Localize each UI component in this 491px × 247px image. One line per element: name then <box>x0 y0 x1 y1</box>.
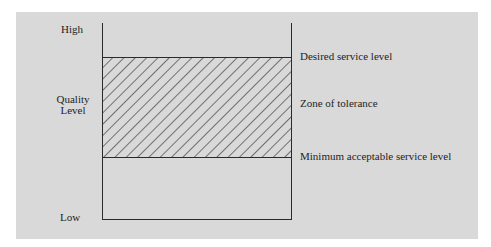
zone-of-tolerance-label: Zone of tolerance <box>300 97 378 110</box>
minimum-acceptable-service-level-label: Minimum acceptable service level <box>300 150 451 163</box>
desired-service-level-label: Desired service level <box>300 50 392 63</box>
y-axis-high-label: High <box>42 23 102 36</box>
tolerance-zone-hatch <box>102 57 292 157</box>
y-axis-low-label: Low <box>40 211 100 224</box>
zone-of-tolerance-diagram <box>0 0 491 247</box>
y-axis-title-line2: Level <box>43 104 103 117</box>
